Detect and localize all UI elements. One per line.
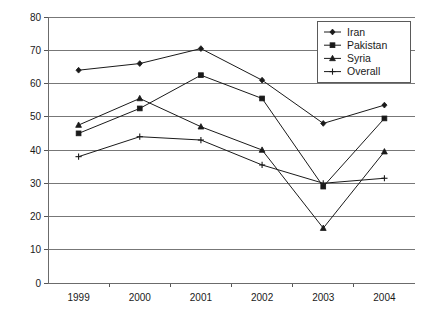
data-point-pakistan-2000 [137,106,142,111]
x-tick-label-2004: 2004 [373,292,396,303]
x-tick-label-2003: 2003 [312,292,335,303]
chart-canvas: 01020304050607080 1999200020012002200320… [0,0,428,322]
y-tick-label-20: 20 [30,211,42,222]
y-tick-label-80: 80 [30,12,42,23]
legend-label-iran: Iran [347,26,365,38]
legend-label-overall: Overall [347,65,380,77]
x-tick-label-2000: 2000 [129,292,152,303]
y-tick-label-10: 10 [30,244,42,255]
x-tick-label-2001: 2001 [190,292,213,303]
line-chart: 01020304050607080 1999200020012002200320… [0,0,428,322]
x-tick-label-1999: 1999 [67,292,90,303]
y-tick-label-70: 70 [30,45,42,56]
data-point-pakistan-2004 [382,116,387,121]
legend-label-pakistan: Pakistan [347,39,387,51]
y-tick-label-60: 60 [30,78,42,89]
y-tick-label-30: 30 [30,178,42,189]
y-tick-label-0: 0 [35,278,41,289]
chart-legend: IranPakistanSyriaOverall [317,21,410,82]
legend-marker-pakistan [330,43,335,48]
data-point-pakistan-2002 [260,96,265,101]
data-point-pakistan-1999 [76,131,81,136]
x-tick-label-2002: 2002 [251,292,274,303]
y-tick-label-40: 40 [30,145,42,156]
legend-label-syria: Syria [347,52,371,64]
y-tick-label-50: 50 [30,111,42,122]
data-point-pakistan-2001 [199,73,204,78]
